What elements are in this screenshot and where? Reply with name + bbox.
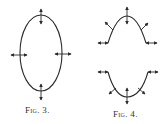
fig4-lower-cup xyxy=(98,72,158,104)
fig4-caption: Fig. 4. xyxy=(113,109,138,119)
fig4-upper-left-diag-arrow-icon xyxy=(105,22,113,30)
fig3-caption: Fig. 3. xyxy=(25,105,50,115)
fig3-ellipse xyxy=(20,15,62,91)
fig4-lower-left-diag-arrow-icon xyxy=(109,88,116,94)
fig3-diagram xyxy=(11,9,71,100)
fig4-upper-arch xyxy=(98,7,157,43)
fig4-upper-right-diag-arrow-icon xyxy=(141,23,148,30)
